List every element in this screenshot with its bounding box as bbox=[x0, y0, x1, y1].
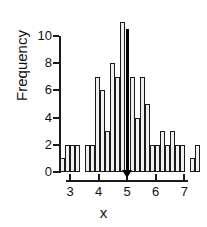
x-axis-tick-label: 7 bbox=[172, 185, 196, 199]
y-axis-tick bbox=[53, 171, 59, 173]
histogram-bar-highlighted bbox=[126, 29, 129, 172]
x-axis-tick-label: 3 bbox=[58, 185, 82, 199]
y-axis-tick-label: 2 bbox=[22, 138, 52, 151]
x-axis-tick bbox=[155, 174, 157, 181]
y-axis-tick bbox=[53, 117, 59, 119]
y-axis-tick bbox=[53, 35, 59, 37]
plot-area bbox=[60, 20, 200, 172]
histogram-figure: Frequency 0246810 34567 x bbox=[0, 0, 207, 227]
y-axis-tick bbox=[53, 89, 59, 91]
y-axis-tick bbox=[53, 62, 59, 64]
x-axis-title: x bbox=[0, 204, 207, 221]
x-axis-tick-label: 4 bbox=[87, 185, 111, 199]
highlight-marker-icon bbox=[122, 170, 132, 178]
x-axis-tick bbox=[98, 174, 100, 181]
y-axis-tick-label: 8 bbox=[22, 56, 52, 69]
histogram-bar bbox=[120, 22, 125, 172]
histogram-bar bbox=[75, 145, 80, 172]
x-axis-tick bbox=[183, 174, 185, 181]
histogram-bars bbox=[60, 20, 200, 172]
x-axis-tick bbox=[69, 174, 71, 181]
y-axis-tick bbox=[53, 144, 59, 146]
histogram-bar bbox=[180, 145, 185, 172]
x-axis-tick-label: 6 bbox=[144, 185, 168, 199]
histogram-bar bbox=[195, 145, 200, 172]
y-axis-tick-label: 6 bbox=[22, 83, 52, 96]
y-axis-tick-label: 10 bbox=[22, 29, 52, 42]
x-axis-tick-label: 5 bbox=[115, 185, 139, 199]
y-axis-tick-label: 4 bbox=[22, 111, 52, 124]
y-axis-tick-label: 0 bbox=[22, 165, 52, 178]
